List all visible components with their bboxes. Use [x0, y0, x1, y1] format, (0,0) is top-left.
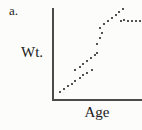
scatter-dot: [63, 88, 65, 90]
scatter-dot: [103, 23, 105, 25]
x-axis-label: Age: [52, 104, 142, 120]
scatter-dot: [67, 85, 69, 87]
scatter-dot: [82, 63, 84, 65]
scatter-dot: [74, 80, 76, 82]
scatter-dot: [79, 66, 81, 68]
scatter-dot: [91, 69, 93, 71]
scatter-dot: [123, 19, 125, 21]
scatter-dot: [71, 83, 73, 85]
scatter-dot: [111, 17, 113, 19]
scatter-dot: [74, 69, 76, 71]
scatter-dot: [86, 72, 88, 74]
scatter-dot: [115, 14, 117, 16]
scatter-dot: [79, 77, 81, 79]
scatter-dot: [107, 20, 109, 22]
scatter-dot: [122, 8, 124, 10]
scatter-dot: [90, 57, 92, 59]
y-axis-label: Wt.: [21, 44, 43, 60]
scatter-dot: [99, 37, 101, 39]
scatter-dot: [96, 52, 98, 54]
scatter-dot: [118, 11, 120, 13]
scatter-dot: [86, 60, 88, 62]
scatter-dot: [139, 20, 141, 22]
panel-label: a.: [9, 4, 18, 18]
scatter-dot: [99, 27, 101, 29]
scatter-dot: [127, 20, 129, 22]
scatter-dot: [131, 20, 133, 22]
scatter-dot: [96, 43, 98, 45]
scatter-dot: [82, 74, 84, 76]
plot-area: [52, 8, 142, 101]
scatter-figure-panel: a. Wt. Age: [0, 0, 142, 130]
scatter-dot: [120, 20, 122, 22]
scatter-dot: [101, 32, 103, 34]
scatter-dot: [94, 54, 96, 56]
scatter-dot: [135, 20, 137, 22]
scatter-dot: [59, 91, 61, 93]
